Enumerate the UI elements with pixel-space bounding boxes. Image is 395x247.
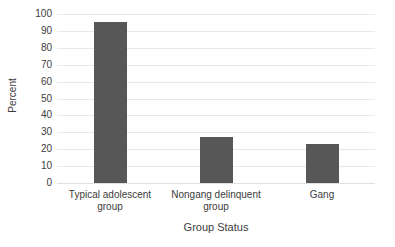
axis-baseline	[57, 183, 375, 184]
x-axis-tick-labels: Typical adolescent groupNongang delinque…	[57, 189, 375, 219]
y-axis-title: Percent	[0, 0, 24, 190]
y-axis-tick-labels: 1009080706050403020100	[24, 14, 56, 183]
bar	[306, 144, 339, 183]
bar-chart: Percent 1009080706050403020100 Typical a…	[0, 0, 395, 247]
y-tick-label: 80	[41, 43, 52, 53]
y-tick-label: 90	[41, 26, 52, 36]
x-axis-title: Group Status	[57, 221, 375, 233]
y-tick-label: 20	[41, 144, 52, 154]
y-tick-label: 10	[41, 161, 52, 171]
x-tick-label: Typical adolescent group	[55, 189, 165, 213]
y-tick-label: 0	[46, 178, 52, 188]
y-tick-label: 40	[41, 110, 52, 120]
y-tick-label: 50	[41, 94, 52, 104]
bars-layer	[57, 14, 375, 183]
bar	[200, 137, 233, 183]
plot-area	[57, 14, 375, 183]
y-tick-label: 60	[41, 77, 52, 87]
y-axis-title-text: Percent	[7, 78, 18, 112]
y-tick-label: 100	[35, 9, 52, 19]
y-tick-label: 70	[41, 60, 52, 70]
x-tick-label: Nongang delinquent group	[161, 189, 271, 213]
x-tick-label: Gang	[267, 189, 377, 201]
bar	[94, 22, 127, 183]
y-tick-label: 30	[41, 127, 52, 137]
